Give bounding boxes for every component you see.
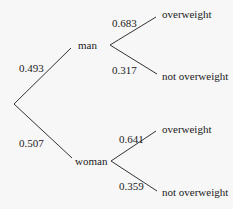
prob-man-overweight: 0.683 bbox=[112, 17, 137, 29]
leaf-woman-overweight: overweight bbox=[162, 123, 211, 135]
tree-lines bbox=[0, 0, 233, 209]
leaf-man-overweight: overweight bbox=[162, 8, 211, 20]
prob-man: 0.493 bbox=[19, 62, 44, 74]
prob-woman-not-overweight: 0.359 bbox=[119, 180, 144, 192]
node-man: man bbox=[78, 39, 97, 51]
leaf-woman-not-overweight: not overweight bbox=[162, 186, 228, 198]
branch-root-woman bbox=[14, 104, 72, 158]
branch-root-man bbox=[14, 48, 71, 104]
prob-woman-overweight: 0.641 bbox=[119, 133, 144, 145]
prob-man-not-overweight: 0.317 bbox=[112, 64, 137, 76]
leaf-man-not-overweight: not overweight bbox=[162, 70, 228, 82]
prob-woman: 0.507 bbox=[19, 137, 44, 149]
node-woman: woman bbox=[75, 155, 107, 167]
